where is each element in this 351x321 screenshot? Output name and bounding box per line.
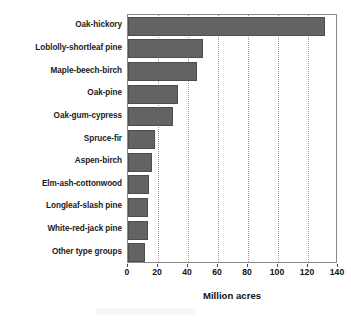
bar — [128, 153, 152, 172]
bar — [128, 175, 149, 194]
bar — [128, 198, 148, 217]
category-label: Spruce-fir — [0, 134, 122, 143]
bar — [128, 17, 325, 36]
category-label: Longleaf-slash pine — [0, 201, 122, 210]
category-label: White-red-jack pine — [0, 224, 122, 233]
value-axis: 020406080100120140 — [127, 264, 337, 278]
axis-tick-label: 20 — [152, 267, 162, 277]
gridline — [278, 15, 279, 262]
bar-chart: Oak-hickoryLoblolly-shortleaf pineMaple-… — [0, 0, 351, 321]
plot-area — [127, 14, 337, 263]
category-label: Oak-pine — [0, 88, 122, 97]
axis-tick-label: 40 — [182, 267, 192, 277]
category-label: Aspen-birch — [0, 156, 122, 165]
category-label: Loblolly-shortleaf pine — [0, 43, 122, 52]
bar — [128, 39, 203, 58]
category-label: Other type groups — [0, 247, 122, 256]
gridline — [308, 15, 309, 262]
category-axis: Oak-hickoryLoblolly-shortleaf pineMaple-… — [0, 14, 122, 263]
gridline — [218, 15, 219, 262]
bar — [128, 221, 148, 240]
bar — [128, 107, 173, 126]
x-axis-title: Million acres — [127, 290, 337, 301]
category-label: Maple-beech-birch — [0, 66, 122, 75]
axis-tick-label: 0 — [125, 267, 130, 277]
axis-tick-label: 80 — [242, 267, 252, 277]
axis-tick-label: 120 — [300, 267, 314, 277]
axis-tick-label: 100 — [270, 267, 284, 277]
bar — [128, 62, 197, 81]
bar — [128, 85, 178, 104]
category-label: Elm-ash-cottonwood — [0, 179, 122, 188]
bar — [128, 130, 155, 149]
category-label: Oak-hickory — [0, 20, 122, 29]
axis-tick-label: 140 — [330, 267, 344, 277]
axis-tick-label: 60 — [212, 267, 222, 277]
bar — [128, 243, 145, 262]
category-label: Oak-gum-cypress — [0, 111, 122, 120]
scan-artifact — [96, 308, 196, 315]
gridline — [248, 15, 249, 262]
